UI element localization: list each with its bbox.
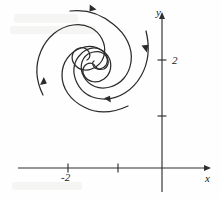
flow-arrow-arm1 — [142, 45, 149, 53]
y-axis-label: y — [156, 7, 161, 18]
trajectory-arm-3 — [37, 25, 105, 95]
spiral-trajectories — [37, 11, 148, 112]
flow-arrow-arm2 — [90, 5, 97, 12]
x-tick-label-minus2: -2 — [61, 172, 70, 183]
x-axis-label: x — [205, 173, 210, 184]
phase-portrait-figure: y x 2 -2 — [0, 0, 222, 199]
plot-canvas — [0, 0, 222, 199]
axis-arrowheads — [159, 12, 211, 171]
flow-arrow-arm3 — [40, 77, 47, 85]
x-axis-arrowhead — [204, 165, 211, 171]
y-tick-label-2: 2 — [172, 55, 178, 66]
